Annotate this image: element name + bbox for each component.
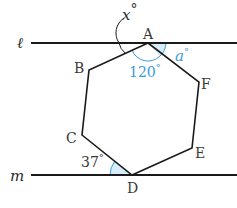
geometry-figure: ℓ m A B C D E F x° a° 120° 37° bbox=[0, 0, 237, 208]
angle-x-label: x° bbox=[122, 1, 137, 24]
vertex-F-label: F bbox=[201, 76, 211, 92]
angle-120-label: 120° bbox=[129, 62, 161, 80]
angle-37-label: 37° bbox=[81, 152, 104, 170]
line-m-label: m bbox=[10, 167, 24, 185]
vertex-E-label: E bbox=[195, 145, 205, 161]
vertex-C-label: C bbox=[66, 130, 77, 146]
vertex-D-label: D bbox=[127, 180, 138, 196]
angle-a-label: a° bbox=[175, 46, 189, 65]
vertex-B-label: B bbox=[74, 60, 84, 76]
line-l-label: ℓ bbox=[17, 34, 23, 52]
vertex-A-label: A bbox=[142, 26, 154, 42]
angle-120-arc bbox=[132, 50, 160, 61]
